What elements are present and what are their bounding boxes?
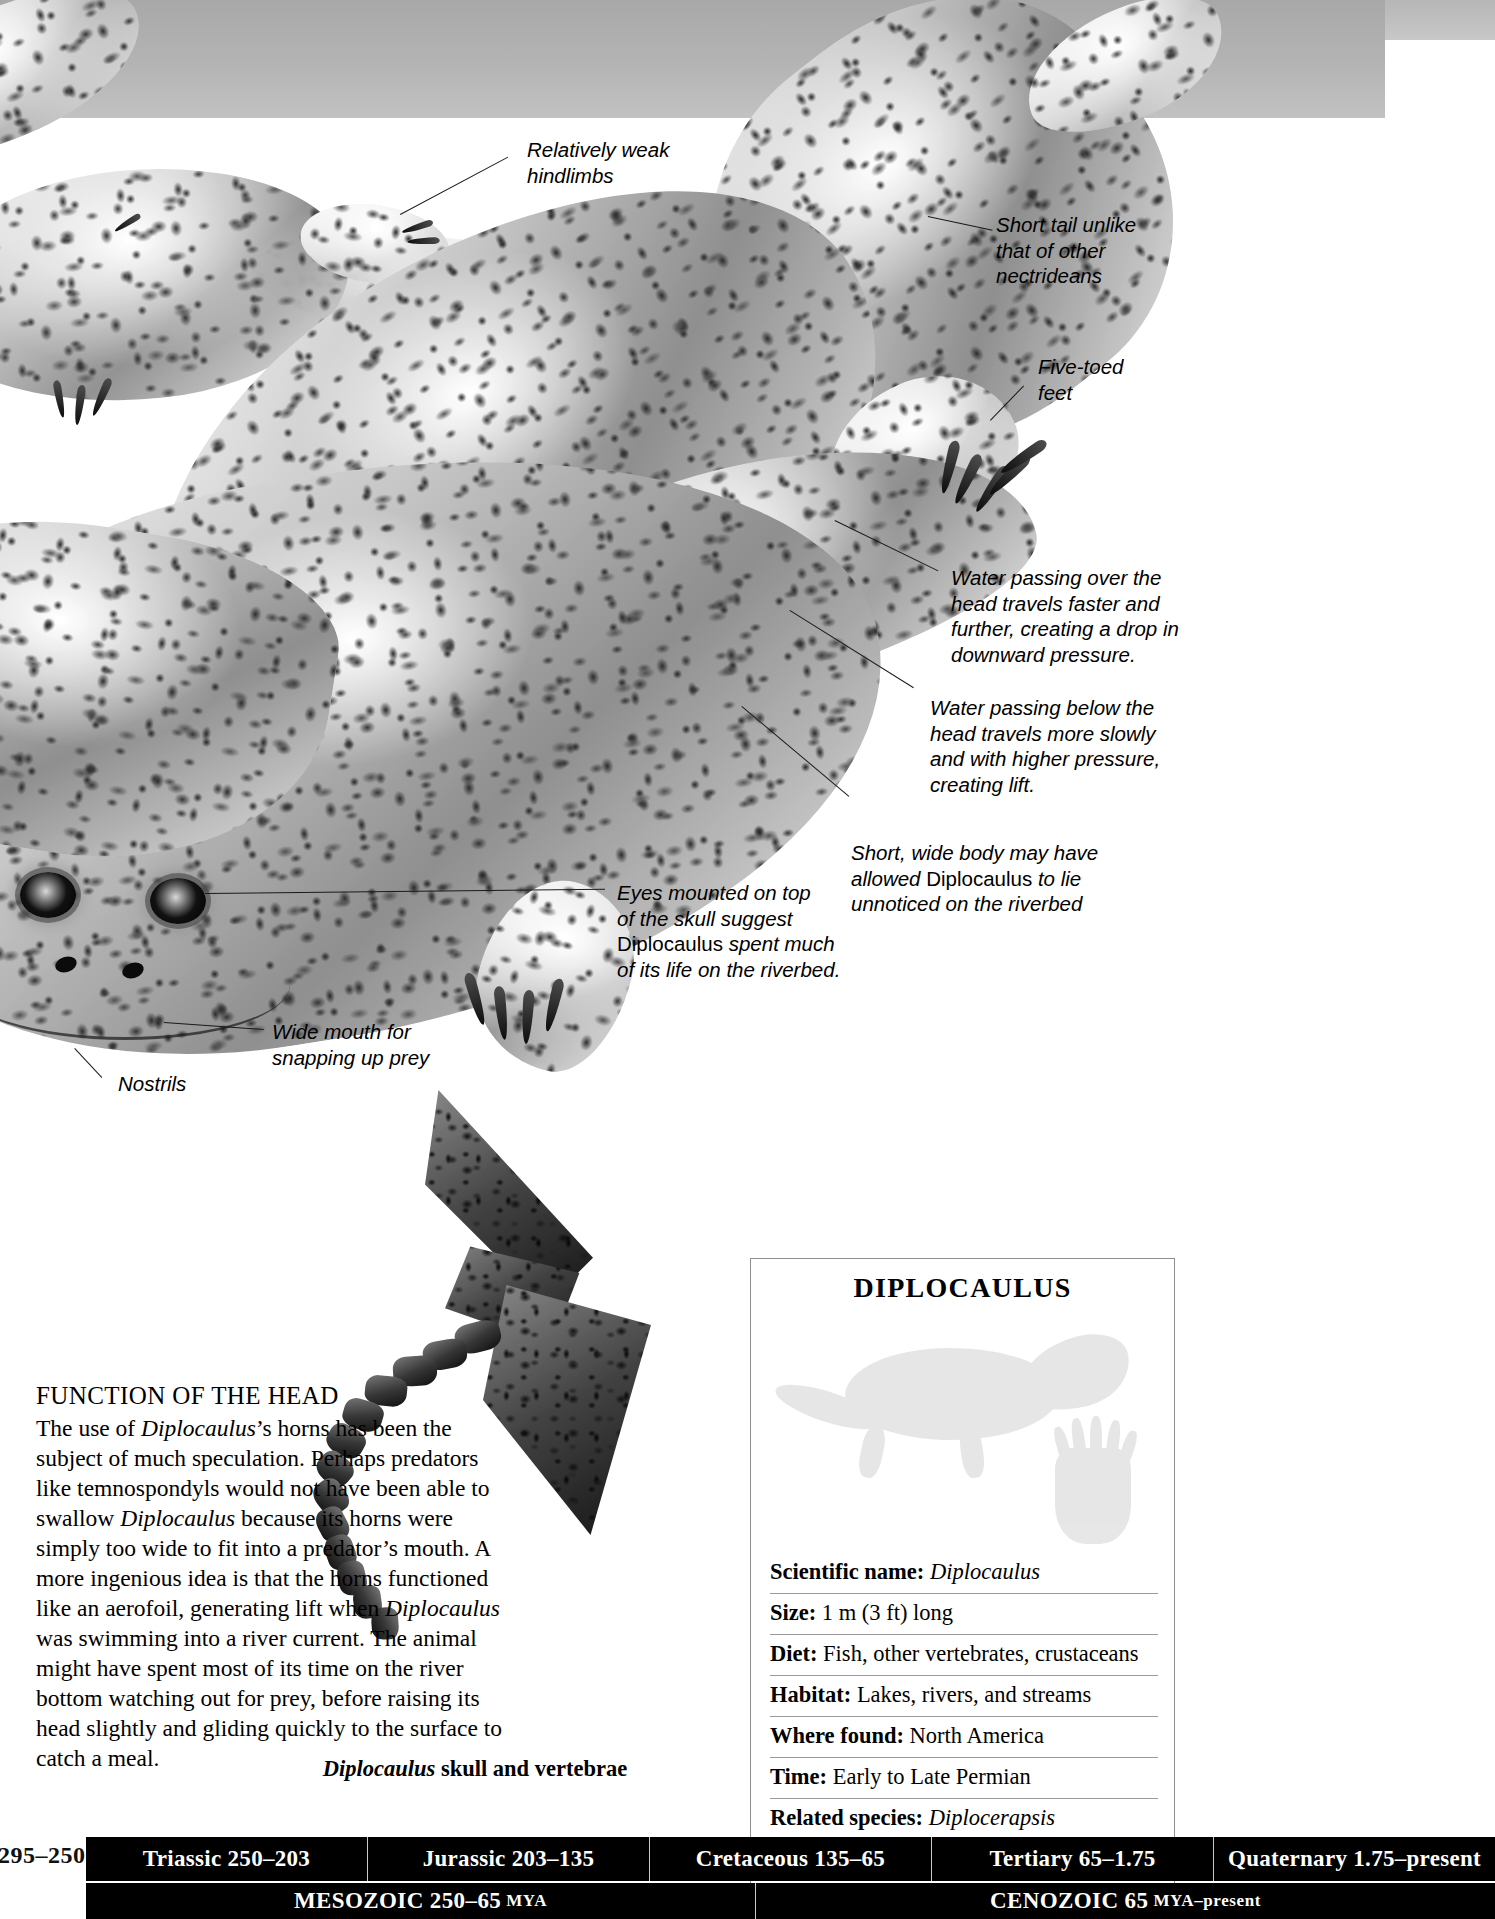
body-text-run: was swimming into a river current. The a… <box>36 1625 502 1771</box>
leader-line-nostrils <box>74 1048 102 1078</box>
callout-text: Nostrils <box>118 1072 186 1095</box>
fact-value: Diplocerapsis <box>929 1805 1055 1830</box>
callout-text: Short tail unlikethat of othernectridean… <box>996 213 1136 287</box>
era-suffix: MYA <box>506 1891 547 1911</box>
fact-row: Related species: Diplocerapsis <box>770 1799 1158 1840</box>
callout-five-toed-feet: Five-toedfeet <box>1038 354 1238 405</box>
silhouette-finger <box>1090 1416 1102 1466</box>
timeline-period-cell: Cretaceous 135–65 <box>650 1837 932 1881</box>
callout-water-passing-below: Water passing below thehead travels more… <box>930 695 1230 797</box>
timeline-period-cell: Triassic 250–203 <box>86 1837 368 1881</box>
fact-row: Diet: Fish, other vertebrates, crustacea… <box>770 1635 1158 1676</box>
fact-row: Size: 1 m (3 ft) long <box>770 1594 1158 1635</box>
factbox-list: Scientific name: DiplocaulusSize: 1 m (3… <box>770 1553 1158 1840</box>
callout-wide-mouth: Wide mouth forsnapping up prey <box>272 1019 512 1070</box>
callout-text: Water passing over thehead travels faste… <box>951 566 1179 666</box>
callout-water-passing-over: Water passing over thehead travels faste… <box>951 565 1251 667</box>
fact-value: Early to Late Permian <box>833 1764 1031 1789</box>
timeline-era-cenozoic: CENOZOIC 65MYA–present <box>756 1883 1495 1919</box>
genus-name: Diplocaulus <box>926 867 1032 890</box>
silhouette-limb <box>856 1424 888 1479</box>
fact-label: Where found: <box>770 1723 904 1748</box>
callout-nostrils: Nostrils <box>118 1071 278 1097</box>
timeline-period-cell: Tertiary 65–1.75 <box>932 1837 1214 1881</box>
timeline-periods-row: Triassic 250–203Jurassic 203–135Cretaceo… <box>86 1837 1495 1881</box>
diplocaulus-silhouette-watermark <box>765 1330 1165 1550</box>
fact-label: Diet: <box>770 1641 817 1666</box>
callout-relatively-weak-hindlimbs: Relatively weakhindlimbs <box>527 137 757 188</box>
era-suffix: MYA–present <box>1153 1891 1261 1911</box>
fact-label: Scientific name: <box>770 1559 924 1584</box>
timeline-eras-row: MESOZOIC 250–65MYA CENOZOIC 65MYA–presen… <box>86 1883 1495 1919</box>
factbox-title: DIPLOCAULUS <box>750 1272 1175 1304</box>
fact-value: Diplocaulus <box>930 1559 1040 1584</box>
callout-text: Water passing below thehead travels more… <box>930 696 1160 796</box>
fact-label: Related species: <box>770 1805 923 1830</box>
fact-row: Habitat: Lakes, rivers, and streams <box>770 1676 1158 1717</box>
leader-line-hindlimbs <box>400 157 508 215</box>
fact-row: Scientific name: Diplocaulus <box>770 1553 1158 1594</box>
geologic-timeline: 295–250 Triassic 250–203Jurassic 203–135… <box>0 1836 1495 1918</box>
feature-paragraph: The use of Diplocaulus’s horns has been … <box>36 1413 506 1773</box>
left-eye <box>20 872 76 918</box>
callout-short-tail: Short tail unlikethat of othernectridean… <box>996 212 1216 289</box>
callout-text: Eyes mounted on topof the skull suggestD… <box>617 881 840 981</box>
callout-text: Wide mouth forsnapping up prey <box>272 1020 429 1069</box>
feature-heading: FUNCTION OF THE HEAD <box>36 1382 506 1410</box>
fact-value: Lakes, rivers, and streams <box>857 1682 1091 1707</box>
body-text-run: The use of <box>36 1415 141 1441</box>
water-surface-band-right <box>1385 0 1495 40</box>
feature-article: FUNCTION OF THE HEAD The use of Diplocau… <box>36 1382 506 1773</box>
genus-name: Diplocaulus <box>120 1505 235 1531</box>
callout-eyes-on-top: Eyes mounted on topof the skull suggestD… <box>617 880 907 982</box>
callout-text: Relatively weakhindlimbs <box>527 138 669 187</box>
diplocaulus-illustration: Relatively weakhindlimbs Short tail unli… <box>0 0 1495 1290</box>
fact-row: Where found: North America <box>770 1717 1158 1758</box>
right-eye <box>150 878 206 924</box>
timeline-era-mesozoic: MESOZOIC 250–65MYA <box>86 1883 756 1919</box>
fact-value: Fish, other vertebrates, crustaceans <box>823 1641 1139 1666</box>
fact-value: 1 m (3 ft) long <box>822 1600 953 1625</box>
fact-row: Time: Early to Late Permian <box>770 1758 1158 1799</box>
skull-left-horn <box>483 1285 651 1535</box>
timeline-period-cell: Quaternary 1.75–present <box>1214 1837 1495 1881</box>
timeline-period-cell: Jurassic 203–135 <box>368 1837 650 1881</box>
genus-name: Diplocaulus <box>617 932 723 955</box>
fact-label: Habitat: <box>770 1682 851 1707</box>
era-name: CENOZOIC 65 <box>990 1888 1148 1914</box>
genus-name: Diplocaulus <box>141 1415 256 1441</box>
era-name: MESOZOIC 250–65 <box>294 1888 501 1914</box>
genus-name: Diplocaulus <box>385 1595 500 1621</box>
timeline-previous-period: 295–250 <box>0 1842 86 1869</box>
fact-label: Size: <box>770 1600 816 1625</box>
fact-label: Time: <box>770 1764 827 1789</box>
fact-value: North America <box>910 1723 1044 1748</box>
callout-text: Five-toedfeet <box>1038 355 1123 404</box>
